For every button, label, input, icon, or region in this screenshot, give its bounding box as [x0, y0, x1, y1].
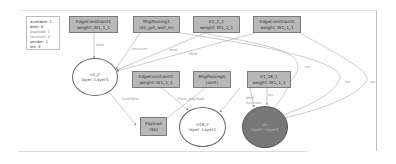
edge-label-src: src	[268, 92, 274, 97]
edge-label-dest: dest	[189, 51, 198, 56]
legend-box: available: 1 dest: 8 payload: 1 receiver…	[26, 16, 60, 50]
node-edge-constraint-top[interactable]: EdgeConstraint1 weight: W1_1_1	[253, 16, 301, 33]
node-msg-passing0[interactable]: MsgPassing0 (sent)	[193, 71, 231, 88]
node-edge-constraint2[interactable]: EdgeConstraint2 weight: W1_1_1	[132, 71, 180, 88]
node-subtitle: ($E_get_wait_m)	[139, 25, 174, 31]
node-subtitle: weight: W1_1_1	[139, 80, 172, 86]
node-subtitle: layer: Layer1	[189, 127, 217, 133]
legend-line: src: 3	[30, 44, 56, 49]
node-subtitle: layer: Layer1	[251, 127, 279, 133]
node-msg-passing1[interactable]: MsgPassing1 ($E_get_wait_m)	[133, 16, 180, 33]
node-subtitle: (sent)	[206, 80, 218, 86]
node-e1-1-1[interactable]: E1_1_1 weight: W1_1_1	[193, 16, 240, 33]
edge-label-receiver: receiver	[132, 46, 148, 51]
node-subtitle: layer: Layer1	[81, 77, 109, 83]
edge-label-function: function	[246, 100, 262, 105]
edge-label-from-payload: from_payload	[178, 96, 204, 101]
node-subtitle: weight: W1_1_1	[200, 25, 233, 31]
node-dn[interactable]: dn layer: Layer1	[242, 106, 288, 148]
edge-label-available: available	[122, 96, 140, 101]
edge-label-dest: dest	[169, 47, 178, 52]
edge-label-src: src	[370, 79, 376, 84]
node-edge-constraint1[interactable]: EdgeConstraint1 weight: W1_1_1	[69, 16, 118, 33]
node-subtitle: weight: W1_1_1	[252, 80, 285, 86]
node-subtitle: weight: W1_1_1	[77, 25, 110, 31]
node-payload[interactable]: Payload ($b)	[140, 117, 167, 136]
edge-label-dest: dest	[96, 42, 105, 47]
node-e1-18-1[interactable]: E1_18_1 weight: W1_1_1	[247, 71, 291, 88]
edge-label-src: src	[345, 79, 351, 84]
edge-label-src: src	[305, 64, 311, 69]
node-subtitle: weight: W1_1_1	[260, 25, 293, 31]
node-n1-2[interactable]: n1_2 layer: Layer1	[72, 58, 118, 96]
node-subtitle: ($b)	[149, 127, 158, 133]
node-n18-2[interactable]: n18_2 layer: Layer1	[179, 107, 226, 147]
